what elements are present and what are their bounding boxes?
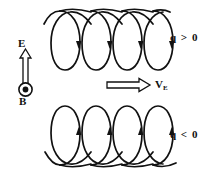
trajectory-positive-loop (144, 11, 173, 70)
trajectory-negative-loop (144, 106, 173, 165)
drift-arrow-group (107, 79, 150, 92)
trajectory-positive-charge (44, 9, 173, 70)
b-field-label: B (19, 96, 26, 107)
trajectory-negative-cusp-arc (45, 152, 60, 165)
circle-dot-center (23, 87, 29, 93)
drift-velocity-symbol: V (155, 78, 163, 90)
trajectory-positive-lead-tail (44, 11, 60, 24)
trajectory-negative-direction-markers (76, 127, 174, 135)
e-field-label: E (18, 38, 25, 49)
negative-charge-label: q < 0 (170, 129, 198, 140)
drift-velocity-label: VE (155, 79, 168, 92)
figure-canvas: E B VE q > 0 q < 0 (0, 0, 223, 177)
positive-charge-label: q > 0 (170, 32, 198, 43)
diagram-svg (0, 0, 223, 177)
trajectory-negative-charge (45, 106, 176, 167)
hollow-right-arrow-icon (107, 79, 150, 92)
drift-velocity-subscript: E (163, 84, 168, 92)
trajectory-positive-direction-markers (76, 41, 174, 49)
